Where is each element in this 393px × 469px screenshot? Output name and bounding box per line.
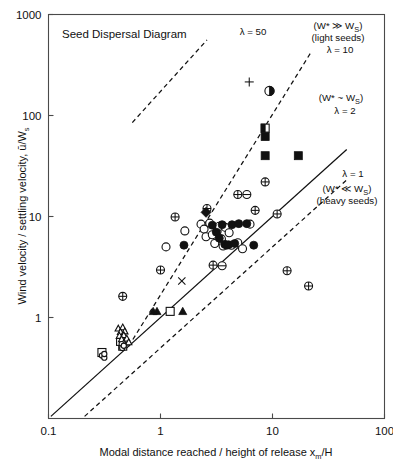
data-point-crossed-circle-4 [209,261,217,269]
y-tick-label-1: 1 [35,312,41,324]
y-tick-label-10: 10 [29,211,42,223]
data-point-horizontal-circle-0 [218,262,226,270]
annotation-lambda-10: λ = 10 [327,44,354,55]
data-point-open-square-0 [166,307,174,315]
data-point-crossed-circle-5 [234,191,242,199]
data-point-open-circle-small-5 [102,351,107,356]
y-axis-title-main: Wind velocity / settling velocity, ū/W [16,131,28,305]
regime-light-main: (W* ≫ W [314,20,356,31]
annotation-lambda-2: λ = 2 [334,105,355,116]
data-point-filled-square-1 [261,152,269,160]
data-point-crossed-circle-6 [251,206,259,214]
data-point-filled-circle-12 [250,241,258,249]
data-point-filled-circle-9 [231,240,239,248]
x-tick-label-1: 1 [157,425,163,437]
x-tick-label-10: 10 [266,425,279,437]
data-point-horizontal-circle-1 [243,191,251,199]
data-point-filled-circle-4 [218,221,226,229]
regime-heavy-main: (W* ≪ W [323,183,365,194]
y-axis-title-subscript: s [22,127,31,131]
data-point-filled-circle-0 [180,241,188,249]
y-tick-label-100: 100 [22,110,41,122]
data-point-open-circle-0 [162,243,170,251]
figure-background [0,0,393,469]
data-point-filled-circle-10 [235,220,243,228]
data-point-crossed-circle-10 [305,282,313,290]
chart-canvas: 1000100101 0.1110100 Seed Dispersal Diag… [0,0,393,469]
annotation-light-seeds: (light seeds) [312,32,365,43]
data-point-open-circle-16 [239,245,247,253]
annotation-lambda-50: λ = 50 [240,26,267,37]
annotation-heavy-seeds: (heavy seeds) [317,195,378,206]
y-tick-label-1000: 1000 [16,9,42,21]
regime-light-tail: ) [359,20,362,31]
regime-similar-tail: ) [360,92,363,103]
x-axis-title-tail: /H [322,446,333,458]
data-point-crossed-circle-2 [171,213,179,221]
data-point-crossed-circle-0 [119,292,127,300]
annotation-lambda-1: λ = 1 [342,168,363,179]
data-point-filled-circle-11 [243,220,251,228]
data-point-crossed-circle-1 [157,266,165,274]
x-tick-label-100: 100 [375,425,393,437]
data-point-half-square-0 [261,124,269,132]
chart-title: Seed Dispersal Diagram [62,28,187,40]
data-point-filled-square-0 [261,132,269,140]
data-point-open-circle-1 [181,227,189,235]
x-axis-title-main: Modal distance reached / height of relea… [99,446,315,458]
regime-heavy-tail: ) [368,183,371,194]
data-point-filled-square-2 [294,152,302,160]
data-point-open-circle-13 [225,229,233,237]
data-point-half-circle-0 [265,86,274,95]
seed-dispersal-figure: 1000100101 0.1110100 Seed Dispersal Diag… [0,0,393,469]
x-tick-label-0.1: 0.1 [41,425,57,437]
data-point-crossed-circle-7 [261,178,269,186]
data-point-open-circle-small-4 [121,343,126,348]
data-point-crossed-circle-9 [283,267,291,275]
regime-similar-main: (W* ~ W [319,92,356,103]
data-point-crossed-circle-8 [273,210,281,218]
